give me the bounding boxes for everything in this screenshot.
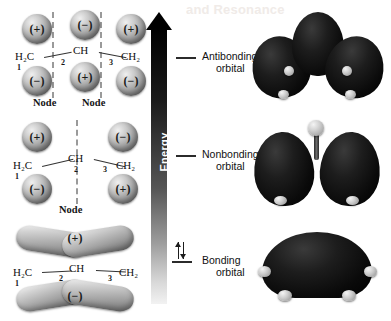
p-orbital-bottom-c3: (−)	[116, 66, 146, 96]
orbital-render-antibonding	[250, 6, 390, 110]
electron-arrow-up-head	[175, 242, 181, 247]
carbon-label-c2: CH	[73, 44, 88, 56]
carbon-number-2: 2	[61, 58, 65, 67]
p-orbital-top-c3: (+)	[116, 14, 146, 44]
p-orbital-bottom-c2: (+)	[70, 62, 100, 92]
caption-line-1: Bonding	[202, 254, 241, 266]
hydrogen-atom	[284, 66, 294, 76]
orbital-render-nonbonding	[250, 110, 390, 214]
node-label-1: Node	[33, 97, 56, 108]
hydrogen-atom	[342, 290, 356, 301]
delocalized-lobe-bottom: (−)	[16, 280, 134, 314]
p-orbital-top-c2: (−)	[70, 10, 100, 40]
carbon-number-3: 3	[109, 58, 113, 67]
carbon-number-3: 3	[103, 165, 107, 174]
lobe-sign: (+)	[68, 231, 83, 246]
orbital-lobe-delocalized	[262, 232, 372, 298]
lobe-sign: (+)	[30, 23, 45, 35]
lobe-sign: (−)	[68, 289, 83, 304]
caption-line-2: orbital	[202, 266, 245, 278]
lobe-sign: (−)	[124, 75, 139, 87]
carbon-number-1: 1	[15, 172, 19, 181]
lobe-sign: (+)	[78, 71, 93, 83]
hydrogen-atom	[342, 66, 352, 76]
delocalized-lobe-top: (+)	[16, 226, 134, 260]
lobe-sign: (−)	[30, 183, 45, 195]
hydrogen-atom-top	[308, 120, 324, 136]
p-orbital-bottom-c1: (−)	[22, 174, 52, 204]
lobe-sign: (+)	[30, 131, 45, 143]
hydrogen-atom	[278, 290, 292, 301]
p-orbital-bottom-c1: (−)	[22, 66, 52, 96]
orbital-panel-bonding: (+) H₂C CH CH₂ 1 2 3 (−)	[4, 222, 150, 321]
p-orbital-top-c1: (+)	[22, 14, 52, 44]
orbital-panel-antibonding: (+) (−) (+) H₂C CH CH₂ 1 2 3 (−) (+) (−)…	[4, 8, 150, 108]
node-line-2	[100, 12, 102, 98]
carbon-label-c1: H₂C	[13, 266, 32, 278]
carbon-label-c1: H₂C	[13, 159, 32, 171]
bond-c1-c2	[44, 52, 72, 58]
energy-arrow-shaft: Energy	[151, 28, 167, 304]
energy-axis: Energy	[146, 12, 172, 304]
hydrogen-atom	[346, 196, 359, 205]
bond-c1-c2	[42, 270, 72, 273]
carbon-label-c2: CH	[68, 152, 83, 164]
hydrogen-atom	[345, 90, 356, 99]
hydrogen-atom	[258, 266, 271, 277]
carbon-number-1: 1	[17, 63, 21, 72]
energy-level-antibonding	[176, 57, 196, 59]
orbital-panel-nonbonding: (+) (−) H₂C CH CH₂ 1 2 3 (−) (+) Node	[4, 116, 150, 216]
hydrogen-atom	[278, 90, 289, 99]
carbon-label-c2: CH	[69, 262, 84, 274]
lobe-sign: (+)	[116, 183, 131, 195]
carbon-label-c1: H₂C	[15, 50, 34, 62]
energy-level-caption-bonding: Bonding orbital	[202, 254, 245, 278]
lobe-sign: (+)	[124, 23, 139, 35]
p-orbital-top-c3: (−)	[108, 122, 138, 152]
p-orbital-top-c1: (+)	[22, 122, 52, 152]
node-label-2: Node	[82, 97, 105, 108]
mo-energy-diagram: and Resonance (+) (−) (+) H₂C CH CH₂ 1 2…	[0, 0, 391, 321]
carbon-label-c3: CH₂	[119, 266, 138, 278]
carbon-label-c3: CH₂	[116, 159, 135, 171]
hydrogen-atom	[274, 196, 287, 205]
hydrogen-atom	[364, 266, 377, 277]
electron-pair-arrows-bonding	[172, 242, 194, 264]
carbon-number-2: 2	[74, 165, 78, 174]
energy-axis-label: Energy	[158, 121, 170, 183]
lobe-sign: (−)	[78, 19, 93, 31]
carbon-label-c3: CH₂	[121, 50, 140, 62]
lobe-sign: (−)	[30, 75, 45, 87]
p-orbital-bottom-c3: (+)	[108, 174, 138, 204]
lobe-sign: (−)	[116, 131, 131, 143]
electron-arrow-down-head	[180, 254, 186, 259]
node-label-1: Node	[59, 204, 82, 215]
energy-level-nonbonding	[176, 155, 196, 157]
orbital-render-bonding	[250, 214, 390, 318]
